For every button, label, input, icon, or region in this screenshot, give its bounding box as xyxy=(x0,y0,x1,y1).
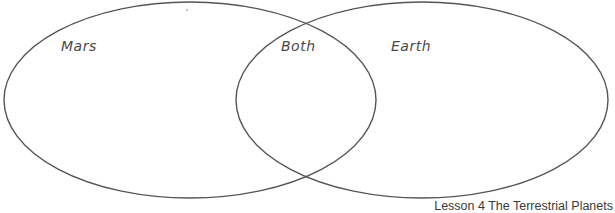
venn-diagram xyxy=(0,0,615,213)
speck-dot xyxy=(186,9,188,11)
earth-label: Earth xyxy=(391,38,431,54)
mars-label: Mars xyxy=(61,38,97,54)
lesson-footer: Lesson 4 The Terrestrial Planets xyxy=(434,199,613,213)
mars-ellipse xyxy=(4,2,376,198)
both-label: Both xyxy=(281,38,316,54)
earth-ellipse xyxy=(236,2,608,198)
